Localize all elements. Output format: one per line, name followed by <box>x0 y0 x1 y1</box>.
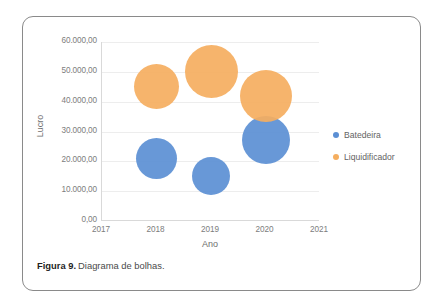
legend-item-label: Liquidificador <box>344 152 395 162</box>
y-tick-label: 10.000,00 <box>27 185 97 194</box>
chart-legend: BatedeiraLiquidificador <box>333 130 423 174</box>
legend-swatch-icon <box>333 132 339 138</box>
page-root: Lucro 0,0010.000,0020.000,0030.000,0040.… <box>0 0 442 306</box>
figure-card: Lucro 0,0010.000,0020.000,0030.000,0040.… <box>22 16 421 291</box>
legend-item-label: Batedeira <box>344 130 381 140</box>
y-tick-label: 20.000,00 <box>27 155 97 164</box>
figure-caption: Figura 9.Diagrama de bolhas. <box>37 260 165 271</box>
y-axis-ticks: 0,0010.000,0020.000,0030.000,0040.000,00… <box>23 42 97 221</box>
y-tick-label: 30.000,00 <box>27 126 97 135</box>
legend-swatch-icon <box>333 154 339 160</box>
bubble-batedeira-2018[interactable] <box>136 138 177 179</box>
bubble-liquidificador-2018[interactable] <box>134 64 179 109</box>
x-tick-label: 2018 <box>134 225 178 234</box>
figure-caption-label: Figura 9. <box>37 260 76 271</box>
x-axis-label: Ano <box>101 239 319 249</box>
y-tick-label: 50.000,00 <box>27 66 97 75</box>
bubble-chart: Lucro 0,0010.000,0020.000,0030.000,0040.… <box>23 17 422 247</box>
x-tick-label: 2020 <box>243 225 287 234</box>
x-tick-label: 2017 <box>79 225 123 234</box>
y-tick-label: 0,00 <box>27 215 97 224</box>
bubble-liquidificador-2019[interactable] <box>185 45 238 98</box>
bubble-batedeira-2020[interactable] <box>242 116 290 164</box>
y-tick-label: 60.000,00 <box>27 36 97 45</box>
x-tick-label: 2021 <box>297 225 341 234</box>
figure-caption-text: Diagrama de bolhas. <box>78 260 165 271</box>
y-tick-label: 40.000,00 <box>27 96 97 105</box>
gridline <box>102 42 319 43</box>
bubble-batedeira-2019[interactable] <box>192 157 230 195</box>
x-tick-label: 2019 <box>188 225 232 234</box>
plot-area <box>101 42 319 221</box>
bubble-liquidificador-2020[interactable] <box>240 70 292 122</box>
legend-item-batedeira[interactable]: Batedeira <box>333 130 423 140</box>
legend-item-liquidificador[interactable]: Liquidificador <box>333 152 423 162</box>
